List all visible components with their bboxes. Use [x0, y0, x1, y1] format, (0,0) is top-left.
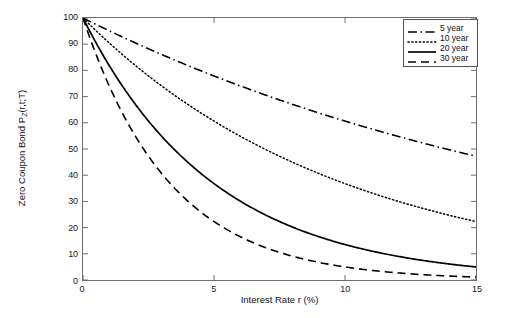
y-tick-label: 50 [52, 145, 78, 154]
x-tick-label: 5 [199, 285, 229, 294]
x-axis-label: Interest Rate r (%) [82, 294, 477, 305]
legend-label: 30 year [440, 53, 468, 63]
y-axis-label-subscript: Z [21, 113, 28, 117]
y-tick-label: 30 [52, 197, 78, 206]
y-tick-label: 40 [52, 171, 78, 180]
legend-item-10-year[interactable]: 10 year [407, 33, 474, 43]
y-axis-tick-labels: 0102030405060708090100 [48, 17, 78, 281]
y-axis-label-tail: (r,t;T) [16, 90, 27, 113]
x-tick-label: 10 [330, 285, 360, 294]
legend-item-5-year[interactable]: 5 year [407, 23, 474, 33]
y-tick-label: 70 [52, 92, 78, 101]
legend-item-30-year[interactable]: 30 year [407, 53, 474, 63]
y-tick-label: 60 [52, 118, 78, 127]
y-axis-label-main: Zero Coupon Bond P [16, 117, 27, 206]
y-tick-label: 10 [52, 250, 78, 259]
x-tick-label: 0 [67, 285, 97, 294]
y-tick-label: 90 [52, 39, 78, 48]
legend-swatch-dotted [407, 33, 437, 43]
x-tick-label: 15 [462, 285, 492, 294]
legend-swatch-dashed [407, 53, 437, 63]
legend-label: 10 year [440, 33, 468, 43]
figure-canvas: 0102030405060708090100 Zero Coupon Bond … [0, 0, 511, 318]
legend-swatch-dash-dot [407, 23, 437, 33]
y-tick-label: 20 [52, 224, 78, 233]
legend-label: 20 year [440, 43, 468, 53]
y-tick-label: 80 [52, 65, 78, 74]
legend-item-20-year[interactable]: 20 year [407, 43, 474, 53]
y-tick-label: 100 [52, 13, 78, 22]
legend-swatch-solid [407, 43, 437, 53]
legend-label: 5 year [440, 23, 464, 33]
chart-legend: 5 year10 year20 year30 year [403, 19, 478, 67]
y-axis-label: Zero Coupon Bond PZ(r,t;T) [16, 60, 28, 236]
